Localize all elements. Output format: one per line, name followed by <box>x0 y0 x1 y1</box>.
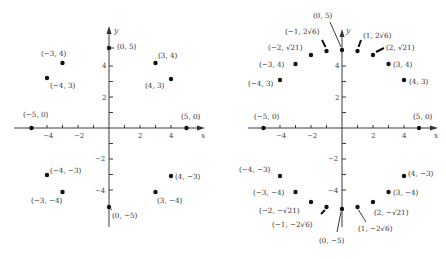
left-y-axis-label: y <box>113 26 119 35</box>
left-y-tick-label: 4 <box>102 62 107 70</box>
right-x-tick-label: −2 <box>307 132 317 140</box>
point-label: (1, 2√6) <box>363 31 392 40</box>
point-2-sqrt21 <box>371 53 375 57</box>
point-label: (−1, −2√6) <box>272 220 313 229</box>
point-2-negsqrt21 <box>371 200 375 204</box>
left-x-axis-arrow-icon <box>197 126 205 131</box>
point-label: (−3, −4) <box>253 188 285 197</box>
left-x-axis-label: x <box>201 131 206 140</box>
right-y-tick-label: −2 <box>328 155 338 163</box>
point-label: (−3, 4) <box>259 60 285 69</box>
point-neg3-4 <box>60 61 64 65</box>
left-y-tick-label: −4 <box>95 187 106 195</box>
point-neg4-3 <box>278 78 282 82</box>
left-y-tick-label: −2 <box>95 155 105 163</box>
point-label: (4, 3) <box>145 81 165 90</box>
point-4-3 <box>402 78 406 82</box>
right-plot: x y −4 −2 2 4 4 2 −2 <box>239 11 439 245</box>
point-label: (−2, −√21) <box>259 206 300 215</box>
point-label: (−4, 3) <box>50 81 76 90</box>
left-x-tick-label: −4 <box>43 132 54 140</box>
point-neg3-neg4 <box>60 190 64 194</box>
point-label: (0, −5) <box>319 236 345 245</box>
point-0-neg5 <box>340 207 344 211</box>
right-x-tick-label: 2 <box>371 132 375 140</box>
point-label: (2, √21) <box>386 43 415 52</box>
point-neg1-neg2sqrt6 <box>324 205 328 209</box>
right-x-tick-label: 4 <box>402 132 407 140</box>
right-points <box>261 48 421 211</box>
point-label: (4, −3) <box>175 172 201 181</box>
point-3-neg4 <box>153 190 157 194</box>
point-label: (2, −√21) <box>374 208 409 217</box>
point-4-3 <box>169 77 173 81</box>
point-5-0 <box>417 126 421 130</box>
point-4-neg3 <box>402 174 406 178</box>
point-5-0 <box>184 126 188 130</box>
point-label: (5, 0) <box>413 112 433 121</box>
right-x-tick-label: −4 <box>276 132 287 140</box>
point-label: (−2, √21) <box>268 43 303 52</box>
point-neg3-neg4 <box>293 190 297 194</box>
point-label: (−1, 2√6) <box>285 27 320 36</box>
integer-points-on-circle-figure: x y −4 −2 2 4 4 2 −2 <box>0 0 446 259</box>
point-neg4-neg3 <box>278 174 282 178</box>
point-label: (3, −4) <box>393 188 419 197</box>
point-neg4-neg3 <box>45 173 49 177</box>
point-label: (0, −5) <box>112 211 138 220</box>
point-4-neg3 <box>169 174 173 178</box>
point-label: (3, 4) <box>158 51 178 60</box>
point-label: (0, 5) <box>313 11 333 20</box>
point-label: (3, −4) <box>157 196 183 205</box>
point-label: (−4, 3) <box>248 79 274 88</box>
left-plot: x y −4 −2 2 4 4 2 −2 <box>14 26 206 227</box>
right-y-axis-label: y <box>345 26 351 35</box>
point-neg2-negsqrt21 <box>309 200 313 204</box>
point-neg1-2sqrt6 <box>324 49 328 53</box>
left-x-tick-label: −2 <box>74 132 84 140</box>
point-neg3-4 <box>293 62 297 66</box>
left-y-tick-label: 2 <box>102 94 106 102</box>
point-neg5-0 <box>261 126 265 130</box>
right-y-tick-label: −4 <box>328 187 339 195</box>
point-label: (0, 5) <box>117 42 137 51</box>
left-x-tick-label: 2 <box>138 132 142 140</box>
left-y-axis-arrow-icon <box>107 26 112 34</box>
point-neg2-sqrt21 <box>309 53 313 57</box>
right-y-axis-arrow-icon <box>340 29 345 37</box>
point-label: (5, 0) <box>181 112 201 121</box>
point-label: (−3, 4) <box>41 49 67 58</box>
point-label: (4, −3) <box>408 169 434 178</box>
point-3-4 <box>153 61 157 65</box>
point-0-5 <box>340 48 344 52</box>
point-label: (−5, 0) <box>254 112 280 121</box>
right-y-tick-label: 4 <box>335 62 340 70</box>
point-1-2sqrt6 <box>355 49 359 53</box>
point-3-neg4 <box>386 190 390 194</box>
point-label: (4, 3) <box>409 77 429 86</box>
point-neg4-3 <box>45 76 49 80</box>
right-y-tick-label: 2 <box>335 94 339 102</box>
point-label: (−4, −3) <box>50 166 82 175</box>
point-neg5-0 <box>29 126 33 130</box>
right-x-axis-arrow-icon <box>430 126 438 131</box>
point-label: (−5, 0) <box>23 110 49 119</box>
right-x-axis-label: x <box>434 131 439 140</box>
point-label: (3, 4) <box>393 60 413 69</box>
point-label: (−4, −3) <box>239 165 271 174</box>
point-label: (−3, −4) <box>31 196 63 205</box>
point-3-4 <box>386 62 390 66</box>
left-x-tick-label: 4 <box>169 132 174 140</box>
point-1-neg2sqrt6 <box>355 205 359 209</box>
point-label: (1, −2√6) <box>358 224 393 233</box>
